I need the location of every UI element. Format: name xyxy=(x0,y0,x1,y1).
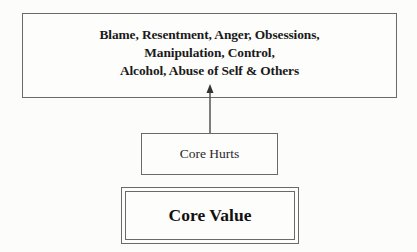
core-hurts-box: Core Hurts xyxy=(141,133,278,175)
behaviors-box: Blame, Resentment, Anger, Obsessions, Ma… xyxy=(22,13,397,98)
core-value-label: Core Value xyxy=(169,205,252,226)
core-value-box: Core Value xyxy=(121,187,299,244)
behaviors-line-2: Manipulation, Control, xyxy=(99,44,319,62)
core-value-inner-border: Core Value xyxy=(125,191,295,240)
core-hurts-label: Core Hurts xyxy=(180,146,240,162)
behaviors-text: Blame, Resentment, Anger, Obsessions, Ma… xyxy=(99,26,319,80)
behaviors-line-3: Alcohol, Abuse of Self & Others xyxy=(99,62,319,80)
behaviors-line-1: Blame, Resentment, Anger, Obsessions, xyxy=(99,26,319,44)
